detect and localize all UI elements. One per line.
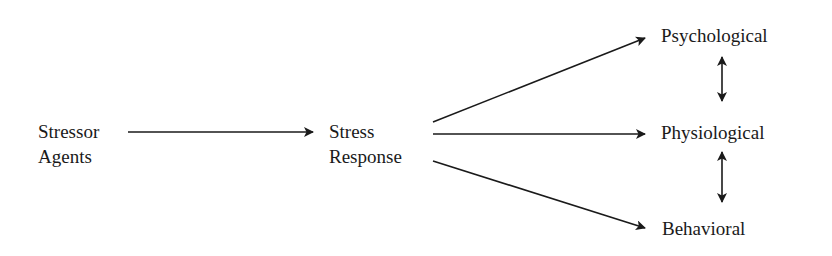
node-behavioral: Behavioral <box>662 216 745 241</box>
node-physiological-label: Physiological <box>661 120 764 145</box>
node-stressor-agents: Stressor Agents <box>38 119 99 169</box>
node-psychological-label: Psychological <box>661 23 768 48</box>
node-psychological: Psychological <box>661 23 768 48</box>
node-response-line1: Stress <box>329 119 402 144</box>
arrow-response-to-behavioral <box>433 161 645 228</box>
node-physiological: Physiological <box>661 120 764 145</box>
node-stressor-line2: Agents <box>38 144 99 169</box>
arrow-response-to-psychological <box>433 38 645 122</box>
node-stressor-line1: Stressor <box>38 119 99 144</box>
node-behavioral-label: Behavioral <box>662 216 745 241</box>
node-stress-response: Stress Response <box>329 119 402 169</box>
node-response-line2: Response <box>329 144 402 169</box>
